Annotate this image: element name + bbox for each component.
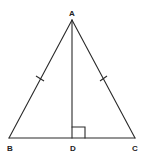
vertex-label-d: D [70,144,76,153]
vertex-label-c: C [132,144,138,153]
vertex-label-a: A [69,9,75,18]
right-angle-marker [72,127,85,138]
tick-mark-ac [100,76,107,81]
vertex-label-b: B [7,144,13,153]
triangle-diagram: A B D C [0,0,144,157]
